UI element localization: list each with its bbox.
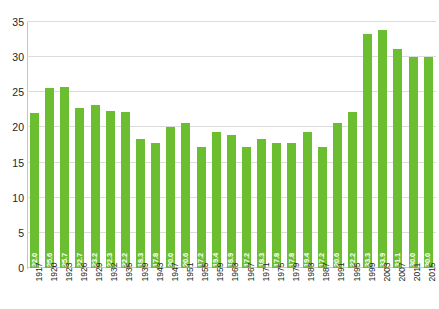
x-label-slot: 1923 bbox=[57, 270, 72, 309]
bar-slot: 17.2 bbox=[315, 22, 330, 268]
x-label-slot: 1939 bbox=[133, 270, 148, 309]
bar[interactable]: 17.2 bbox=[197, 147, 206, 268]
bar-slot: 17.8 bbox=[148, 22, 163, 268]
bar-slot: 17.2 bbox=[239, 22, 254, 268]
bar[interactable]: 20.6 bbox=[181, 123, 190, 268]
x-label-slot: 1932 bbox=[103, 270, 118, 309]
x-label-slot: 1955 bbox=[194, 270, 209, 309]
bar[interactable]: 17.2 bbox=[318, 147, 327, 268]
y-tick-label-15: 15 bbox=[0, 158, 24, 168]
x-label-slot: 1995 bbox=[345, 270, 360, 309]
bar[interactable]: 20.6 bbox=[333, 123, 342, 268]
x-tick-label-2015: 2015 bbox=[428, 263, 437, 282]
y-tick-label-35: 35 bbox=[0, 17, 24, 27]
y-tick-label-30: 30 bbox=[0, 52, 24, 62]
bar[interactable]: 31.1 bbox=[393, 49, 402, 268]
x-label-slot: 1947 bbox=[163, 270, 178, 309]
bar[interactable]: 17.8 bbox=[287, 143, 296, 268]
bar-slot: 18.9 bbox=[224, 22, 239, 268]
bar[interactable]: 19.4 bbox=[303, 132, 312, 268]
bar-slot: 19.4 bbox=[209, 22, 224, 268]
chart-title bbox=[6, 0, 436, 4]
bar-slot: 22.2 bbox=[118, 22, 133, 268]
bar-slot: 18.3 bbox=[254, 22, 269, 268]
bar-slot: 25.7 bbox=[57, 22, 72, 268]
bar-slot: 33.9 bbox=[375, 22, 390, 268]
bar[interactable]: 17.8 bbox=[151, 143, 160, 268]
bar-slot: 30.0 bbox=[421, 22, 436, 268]
bar-slot: 33.3 bbox=[360, 22, 375, 268]
bar-slot: 22.3 bbox=[103, 22, 118, 268]
bar[interactable]: 22.2 bbox=[348, 112, 357, 268]
x-label-slot: 1920 bbox=[42, 270, 57, 309]
x-label-slot: 1987 bbox=[315, 270, 330, 309]
bar-slot: 17.8 bbox=[284, 22, 299, 268]
bar-slot: 20.0 bbox=[163, 22, 178, 268]
bar[interactable]: 18.3 bbox=[136, 139, 145, 268]
x-label-slot: 1929 bbox=[88, 270, 103, 309]
y-axis-tick-labels: 05101520253035 bbox=[0, 0, 24, 309]
plot-area: 22.025.625.722.723.222.322.218.317.820.0… bbox=[27, 22, 436, 268]
bar-slot: 17.8 bbox=[269, 22, 284, 268]
bar-slot: 17.2 bbox=[194, 22, 209, 268]
bar[interactable]: 25.6 bbox=[45, 88, 54, 268]
bar[interactable]: 17.2 bbox=[242, 147, 251, 268]
x-label-slot: 2015 bbox=[421, 270, 436, 309]
x-label-slot: 2003 bbox=[375, 270, 390, 309]
y-tick-label-20: 20 bbox=[0, 122, 24, 132]
x-label-slot: 1935 bbox=[118, 270, 133, 309]
bar[interactable]: 19.4 bbox=[212, 132, 221, 268]
bar-chart: 05101520253035 22.025.625.722.723.222.32… bbox=[0, 0, 439, 309]
x-label-slot: 1999 bbox=[360, 270, 375, 309]
y-tick-label-25: 25 bbox=[0, 87, 24, 97]
x-label-slot: 1959 bbox=[209, 270, 224, 309]
bar-slot: 19.4 bbox=[300, 22, 315, 268]
x-label-slot: 1979 bbox=[284, 270, 299, 309]
bar[interactable]: 22.3 bbox=[106, 111, 115, 268]
x-label-slot: 2011 bbox=[406, 270, 421, 309]
bar-slot: 31.1 bbox=[390, 22, 405, 268]
bar-slot: 22.2 bbox=[345, 22, 360, 268]
bar[interactable]: 33.3 bbox=[363, 34, 372, 268]
bar[interactable]: 18.9 bbox=[227, 135, 236, 268]
bar-slot: 22.0 bbox=[27, 22, 42, 268]
x-label-slot: 1975 bbox=[269, 270, 284, 309]
bar[interactable]: 17.8 bbox=[272, 143, 281, 268]
bar[interactable]: 22.2 bbox=[121, 112, 130, 268]
x-label-slot: 1951 bbox=[178, 270, 193, 309]
bar[interactable]: 20.0 bbox=[166, 127, 175, 268]
x-axis-tick-labels: 1917192019231926192919321935193919431947… bbox=[27, 270, 436, 309]
y-tick-label-5: 5 bbox=[0, 228, 24, 238]
bar-slot: 18.3 bbox=[133, 22, 148, 268]
bar[interactable]: 25.7 bbox=[60, 87, 69, 268]
bar-slot: 30.0 bbox=[406, 22, 421, 268]
bar[interactable]: 23.2 bbox=[91, 105, 100, 268]
y-tick-label-0: 0 bbox=[0, 263, 24, 273]
bar[interactable]: 18.3 bbox=[257, 139, 266, 268]
x-label-slot: 1991 bbox=[330, 270, 345, 309]
y-tick-label-10: 10 bbox=[0, 193, 24, 203]
bar[interactable]: 33.9 bbox=[378, 30, 387, 268]
x-label-slot: 1917 bbox=[27, 270, 42, 309]
bar-slot: 20.6 bbox=[178, 22, 193, 268]
x-label-slot: 1963 bbox=[224, 270, 239, 309]
bar-slot: 25.6 bbox=[42, 22, 57, 268]
x-label-slot: 1943 bbox=[148, 270, 163, 309]
bar[interactable]: 22.0 bbox=[30, 113, 39, 268]
x-label-slot: 2007 bbox=[390, 270, 405, 309]
bar[interactable]: 22.7 bbox=[75, 108, 84, 268]
bar-slot: 20.6 bbox=[330, 22, 345, 268]
x-label-slot: 1983 bbox=[300, 270, 315, 309]
bar[interactable]: 30.0 bbox=[409, 57, 418, 268]
bar-slot: 22.7 bbox=[72, 22, 87, 268]
bar-slot: 23.2 bbox=[88, 22, 103, 268]
x-label-slot: 1967 bbox=[239, 270, 254, 309]
bar-series: 22.025.625.722.723.222.322.218.317.820.0… bbox=[27, 22, 436, 268]
x-label-slot: 1971 bbox=[254, 270, 269, 309]
x-label-slot: 1926 bbox=[72, 270, 87, 309]
bar[interactable]: 30.0 bbox=[424, 57, 433, 268]
